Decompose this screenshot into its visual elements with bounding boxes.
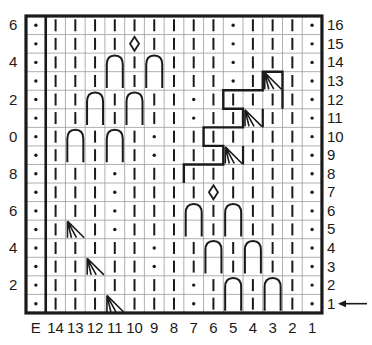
purl-symbol: [153, 154, 156, 157]
column-number: 6: [209, 319, 217, 336]
decrease-fan-icon: [225, 147, 242, 164]
row-number-right: 14: [327, 53, 344, 70]
column-number: 3: [268, 319, 276, 336]
purl-symbol: [310, 154, 313, 157]
row-number-left: 6: [9, 16, 17, 33]
row-number-right: 12: [327, 91, 344, 108]
column-number: E: [31, 319, 41, 336]
row-numbers-left: 64208642: [9, 16, 17, 293]
purl-symbol: [34, 98, 37, 101]
purl-symbol: [34, 154, 37, 157]
row-number-left: 2: [9, 276, 17, 293]
purl-symbol: [310, 265, 313, 268]
knitting-chart: 16151413121110987654321 64208642 E141312…: [0, 0, 372, 345]
purl-symbol: [310, 283, 313, 286]
row-number-right: 15: [327, 35, 344, 52]
purl-symbol: [310, 172, 313, 175]
row-number-right: 13: [327, 72, 344, 89]
decrease-fan-icon: [265, 73, 282, 90]
arrow-head: [338, 300, 346, 307]
row-numbers-right: 16151413121110987654321: [327, 16, 344, 311]
row-number-right: 6: [327, 202, 335, 219]
column-number: 5: [229, 319, 237, 336]
row-number-right: 2: [327, 276, 335, 293]
purl-symbol: [310, 98, 313, 101]
purl-symbol: [34, 228, 37, 231]
bobble-diamond-icon: [209, 185, 218, 199]
decrease-fan-icon: [67, 221, 84, 238]
purl-symbol: [34, 24, 37, 27]
decrease-fan-icon: [245, 110, 262, 127]
arrow-left-icon: [338, 300, 367, 307]
purl-symbol: [34, 246, 37, 249]
column-number: 7: [190, 319, 198, 336]
purl-symbol: [310, 302, 313, 305]
purl-symbol: [310, 42, 313, 45]
purl-symbol: [310, 228, 313, 231]
purl-symbol: [34, 209, 37, 212]
purl-symbol: [34, 42, 37, 45]
purl-symbol: [34, 135, 37, 138]
purl-symbol: [153, 265, 156, 268]
decrease-fan-icon: [87, 258, 104, 275]
row-number-right: 16: [327, 16, 344, 33]
purl-symbol: [113, 228, 116, 231]
bobble-diamond-icon: [130, 37, 139, 51]
purl-symbol: [34, 283, 37, 286]
purl-symbol: [192, 98, 195, 101]
column-number: 9: [150, 319, 158, 336]
column-number: 14: [47, 319, 64, 336]
purl-symbol: [310, 246, 313, 249]
row-number-right: 3: [327, 258, 335, 275]
purl-symbol: [192, 116, 195, 119]
row-number-left: 0: [9, 128, 17, 145]
purl-symbol: [34, 79, 37, 82]
purl-symbol: [231, 42, 234, 45]
purl-symbol: [34, 116, 37, 119]
stitch-cells: [34, 19, 314, 312]
purl-symbol: [231, 24, 234, 27]
purl-symbol: [231, 79, 234, 82]
purl-symbol: [34, 302, 37, 305]
row-number-right: 11: [327, 109, 343, 126]
purl-symbol: [192, 283, 195, 286]
purl-symbol: [310, 61, 313, 64]
row-number-left: 8: [9, 165, 17, 182]
column-number: 4: [249, 319, 257, 336]
decrease-fan-icon: [107, 295, 124, 312]
purl-symbol: [34, 265, 37, 268]
column-number: 10: [126, 319, 143, 336]
purl-symbol: [310, 116, 313, 119]
row-number-right: 9: [327, 146, 335, 163]
row-number-right: 10: [327, 128, 344, 145]
row-number-left: 4: [9, 239, 17, 256]
purl-symbol: [113, 172, 116, 175]
purl-symbol: [34, 61, 37, 64]
column-number: 8: [170, 319, 178, 336]
purl-symbol: [310, 79, 313, 82]
purl-symbol: [231, 61, 234, 64]
purl-symbol: [34, 191, 37, 194]
purl-symbol: [113, 209, 116, 212]
column-number: 13: [67, 319, 84, 336]
row-number-right: 4: [327, 239, 335, 256]
purl-symbol: [310, 191, 313, 194]
row-number-right: 7: [327, 183, 335, 200]
column-number: 2: [288, 319, 296, 336]
purl-symbol: [113, 191, 116, 194]
column-number: 1: [308, 319, 316, 336]
purl-symbol: [34, 172, 37, 175]
purl-symbol: [310, 209, 313, 212]
column-number: 11: [107, 319, 123, 336]
row-number-left: 4: [9, 53, 17, 70]
row-number-left: 2: [9, 91, 17, 108]
purl-symbol: [192, 302, 195, 305]
purl-symbol: [153, 246, 156, 249]
column-numbers: E1413121110987654321: [31, 319, 316, 336]
purl-symbol: [310, 24, 313, 27]
purl-symbol: [153, 135, 156, 138]
row-number-right: 1: [327, 295, 335, 312]
row-number-right: 8: [327, 165, 335, 182]
purl-symbol: [310, 135, 313, 138]
row-number-left: 6: [9, 202, 17, 219]
